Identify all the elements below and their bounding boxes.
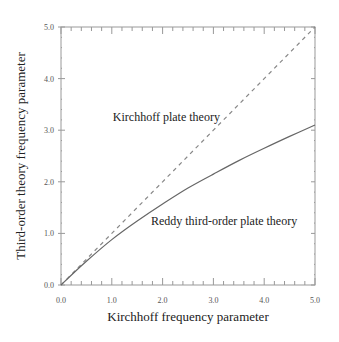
x-tick-label: 4.0 [259,296,269,305]
annotation-reddy: Reddy third-order plate theory [151,214,297,228]
y-axis-label: Third-order theory frequency parameter [13,52,28,260]
x-axis-label: Kirchhoff frequency parameter [107,309,269,324]
annotation-kirchhoff: Kirchhoff plate theory [113,110,220,124]
kirchhoff-dashed-line [61,27,315,285]
y-tick-label: 2.0 [44,178,54,187]
x-tick-label: 2.0 [158,296,168,305]
y-tick-label: 1.0 [44,229,54,238]
y-tick-label: 5.0 [44,23,54,32]
x-tick-label: 1.0 [107,296,117,305]
y-tick-label: 3.0 [44,126,54,135]
reddy-solid-curve [61,125,315,285]
x-tick-label: 0.0 [56,296,66,305]
chart: 0.01.02.03.04.05.00.01.02.03.04.05.0 Kir… [0,0,339,342]
y-tick-label: 4.0 [44,75,54,84]
y-tick-label: 0.0 [44,281,54,290]
x-tick-label: 3.0 [208,296,218,305]
x-tick-label: 5.0 [310,296,320,305]
series-lines [61,27,315,285]
